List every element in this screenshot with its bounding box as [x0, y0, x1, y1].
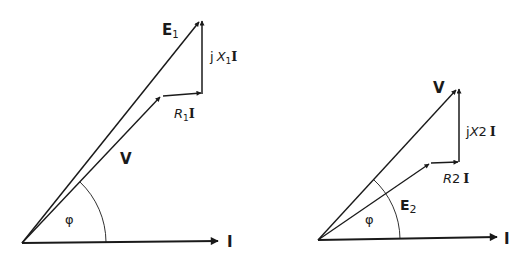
- resistive-drop-arrow: [431, 162, 458, 163]
- emf-label: E1: [162, 21, 179, 40]
- current-label: I: [504, 230, 510, 248]
- resistive-drop-arrow: [163, 93, 201, 96]
- phase-angle-arc: [373, 179, 400, 239]
- right-phasor-diagram: V jX2I R2I E2 φ I: [318, 79, 510, 248]
- emf-label: E2: [400, 197, 417, 216]
- voltage-label: V: [433, 79, 445, 97]
- reactive-drop-label: jX2I: [465, 124, 496, 139]
- resistive-drop-label: R2I: [443, 171, 469, 186]
- reactive-drop-label: jX1I: [209, 49, 237, 66]
- current-phasor-arrow: [22, 241, 218, 243]
- resistive-drop-label: R1I: [174, 106, 195, 123]
- current-phasor-arrow: [318, 237, 497, 240]
- voltage-label: V: [120, 150, 132, 168]
- phase-angle-label: φ: [365, 212, 374, 227]
- current-label: I: [227, 233, 233, 251]
- phase-angle-arc: [80, 182, 106, 242]
- voltage-phasor-arrow: [22, 97, 160, 243]
- phasor-diagrams: E1 jX1I R1I V φ I V jX2I R2I E2 φ I: [0, 0, 531, 263]
- emf-phasor-arrow: [22, 22, 199, 243]
- phase-angle-label: φ: [65, 212, 74, 227]
- voltage-phasor-arrow: [318, 90, 456, 240]
- left-phasor-diagram: E1 jX1I R1I V φ I: [22, 21, 237, 251]
- emf-phasor-arrow: [318, 164, 429, 240]
